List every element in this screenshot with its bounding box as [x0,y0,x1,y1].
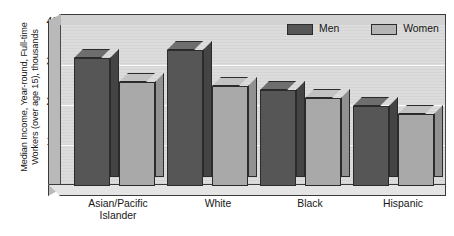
legend-label-women: Women [403,24,439,34]
bar-front-face [212,86,248,186]
x-label-line-1: Hispanic [343,198,454,210]
bar-top-face [167,41,203,50]
bar-side-face [434,105,443,177]
bar-top-face [260,81,296,90]
bar-side-face [389,97,398,177]
bar-chart: Median Income, Year-round, Full-time Wor… [0,0,454,236]
bar-top-face [305,89,341,98]
bar-women-asian-pacific-islander [119,82,155,186]
bar-front-face [398,114,434,186]
bar-front-face [260,90,296,186]
x-label-hispanic: Hispanic [343,198,454,210]
bar-side-face [110,49,119,177]
bar-side-face [296,81,305,177]
bar-men-white [167,50,203,186]
bar-women-white [212,86,248,186]
x-label-line-2: Islander [58,210,178,222]
legend-item-women[interactable]: Women [371,24,439,35]
legend-swatch-women-icon [371,24,397,35]
bar-side-face [155,73,164,177]
bar-front-face [119,82,155,186]
legend-swatch-men-icon [287,24,313,35]
bar-top-face [119,73,155,82]
bar-front-face [305,98,341,186]
bars-layer [48,14,446,196]
legend: Men Women [287,24,439,35]
bar-side-face [203,41,212,177]
bar-front-face [167,50,203,186]
bar-top-face [74,49,110,58]
bar-top-face [398,105,434,114]
bar-men-hispanic [353,106,389,186]
bar-side-face [341,89,350,177]
x-axis-category-labels: Asian/Pacific Islander White Black Hispa… [48,198,446,232]
bar-side-face [248,77,257,177]
bar-front-face [74,58,110,186]
bar-top-face [353,97,389,106]
legend-item-men[interactable]: Men [287,24,339,35]
bar-men-black [260,90,296,186]
bar-women-hispanic [398,114,434,186]
bar-men-asian-pacific-islander [74,58,110,186]
legend-label-men: Men [319,24,339,34]
y-axis-title-line-1: Median Income, Year-round, Full-time [19,0,30,197]
bar-women-black [305,98,341,186]
bar-top-face [212,77,248,86]
bar-front-face [353,106,389,186]
